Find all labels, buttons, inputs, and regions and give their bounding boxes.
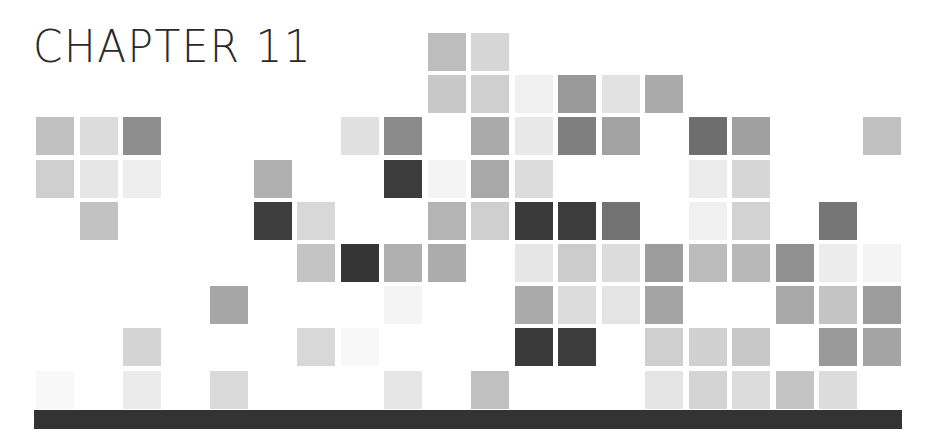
mosaic-square <box>819 371 857 409</box>
mosaic-square <box>341 244 379 282</box>
mosaic-square <box>689 328 727 366</box>
decorative-square-mosaic <box>0 0 930 440</box>
mosaic-square <box>384 371 422 409</box>
mosaic-square <box>689 117 727 155</box>
mosaic-square <box>732 371 770 409</box>
mosaic-square <box>689 202 727 240</box>
mosaic-square <box>471 202 509 240</box>
mosaic-square <box>254 160 292 198</box>
mosaic-square <box>210 286 248 324</box>
mosaic-square <box>602 75 640 113</box>
mosaic-square <box>341 117 379 155</box>
mosaic-square <box>863 286 901 324</box>
mosaic-square <box>471 160 509 198</box>
mosaic-square <box>471 117 509 155</box>
mosaic-square <box>645 328 683 366</box>
mosaic-square <box>123 328 161 366</box>
mosaic-square <box>123 117 161 155</box>
mosaic-square <box>384 117 422 155</box>
mosaic-square <box>645 371 683 409</box>
mosaic-square <box>515 75 553 113</box>
mosaic-square <box>776 371 814 409</box>
mosaic-square <box>297 244 335 282</box>
mosaic-square <box>254 202 292 240</box>
mosaic-square <box>558 117 596 155</box>
mosaic-square <box>863 244 901 282</box>
mosaic-square <box>515 328 553 366</box>
mosaic-square <box>732 202 770 240</box>
mosaic-square <box>602 117 640 155</box>
mosaic-square <box>515 202 553 240</box>
mosaic-square <box>732 117 770 155</box>
mosaic-square <box>428 202 466 240</box>
mosaic-square <box>36 117 74 155</box>
mosaic-square <box>515 117 553 155</box>
mosaic-square <box>80 117 118 155</box>
mosaic-square <box>297 328 335 366</box>
mosaic-square <box>428 33 466 71</box>
mosaic-square <box>515 286 553 324</box>
mosaic-square <box>341 328 379 366</box>
mosaic-square <box>776 244 814 282</box>
mosaic-square <box>80 160 118 198</box>
mosaic-square <box>819 202 857 240</box>
mosaic-square <box>863 117 901 155</box>
mosaic-square <box>819 328 857 366</box>
mosaic-square <box>558 202 596 240</box>
mosaic-square <box>515 160 553 198</box>
mosaic-square <box>210 371 248 409</box>
mosaic-square <box>384 286 422 324</box>
mosaic-square <box>36 160 74 198</box>
mosaic-square <box>732 160 770 198</box>
mosaic-square <box>776 286 814 324</box>
mosaic-square <box>123 371 161 409</box>
mosaic-square <box>123 160 161 198</box>
mosaic-square <box>558 286 596 324</box>
mosaic-square <box>428 160 466 198</box>
mosaic-square <box>602 286 640 324</box>
mosaic-square <box>384 160 422 198</box>
mosaic-square <box>558 75 596 113</box>
mosaic-square <box>297 202 335 240</box>
mosaic-square <box>819 244 857 282</box>
mosaic-square <box>384 244 422 282</box>
mosaic-square <box>732 244 770 282</box>
mosaic-square <box>602 244 640 282</box>
mosaic-square <box>645 75 683 113</box>
mosaic-square <box>689 160 727 198</box>
mosaic-square <box>471 75 509 113</box>
mosaic-square <box>36 371 74 409</box>
mosaic-square <box>863 328 901 366</box>
footer-divider-bar <box>34 410 902 429</box>
mosaic-square <box>515 244 553 282</box>
mosaic-square <box>689 371 727 409</box>
mosaic-square <box>602 202 640 240</box>
mosaic-square <box>689 244 727 282</box>
mosaic-square <box>80 202 118 240</box>
mosaic-square <box>428 75 466 113</box>
mosaic-square <box>471 33 509 71</box>
mosaic-square <box>645 286 683 324</box>
mosaic-square <box>471 371 509 409</box>
mosaic-square <box>645 244 683 282</box>
mosaic-square <box>732 328 770 366</box>
mosaic-square <box>558 244 596 282</box>
mosaic-square <box>428 244 466 282</box>
mosaic-square <box>558 328 596 366</box>
mosaic-square <box>819 286 857 324</box>
